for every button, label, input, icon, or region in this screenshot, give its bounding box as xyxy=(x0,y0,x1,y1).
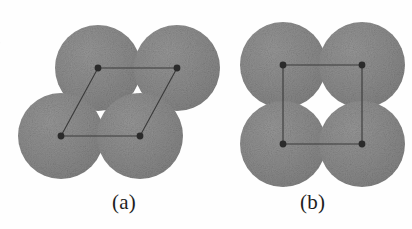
lattice-point xyxy=(174,65,181,72)
lattice-point xyxy=(280,141,287,148)
lattice-point xyxy=(359,141,366,148)
figure-container: (a) (b) e o f t i s e a xyxy=(0,0,412,229)
lattice-point xyxy=(95,65,102,72)
margin-fragment: o xyxy=(0,38,1,47)
packing-diagram-svg xyxy=(0,0,412,229)
panel-b-caption: (b) xyxy=(300,192,325,213)
panel-a-caption: (a) xyxy=(112,192,136,213)
lattice-point xyxy=(280,62,287,69)
lattice-point xyxy=(137,133,144,140)
lattice-point xyxy=(58,133,65,140)
lattice-point xyxy=(359,62,366,69)
